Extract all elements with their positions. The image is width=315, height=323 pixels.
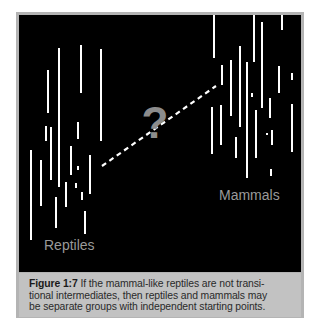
caption-line-2: tional intermediates, then reptiles and … (29, 290, 267, 301)
caption-text: Figure 1:7 If the mammal-like reptiles a… (29, 278, 299, 313)
diagram-canvas: ? (19, 15, 301, 272)
mammals-label: Mammals (219, 187, 280, 203)
caption-line-1: If the mammal-like reptiles are not tran… (80, 278, 264, 289)
figure-caption: Figure 1:7 If the mammal-like reptiles a… (19, 273, 301, 317)
reptiles-label: Reptiles (44, 237, 95, 253)
caption-line-3: be separate groups with independent star… (29, 301, 265, 312)
question-mark-icon: ? (142, 98, 169, 147)
figure-number: Figure 1:7 (29, 278, 78, 289)
reptile-lineage-lines (31, 45, 101, 240)
diagram-panel: ? (19, 15, 301, 272)
mammal-lineage-lines (212, 15, 292, 178)
